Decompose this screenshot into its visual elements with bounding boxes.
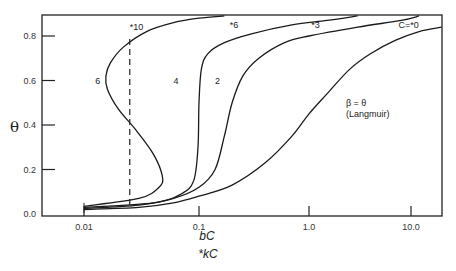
y-tick-label: 0.0 [23, 209, 36, 219]
x-axis-ticks: 0.010.11.010.0 [75, 206, 420, 232]
x-tick-label: 10.0 [402, 222, 420, 232]
annotation-label: β = θ [346, 98, 366, 108]
x-axis-title: bC [199, 229, 215, 243]
annotation-label: 2 [215, 76, 220, 86]
isotherm-curve-3 [84, 16, 224, 206]
annotation-label: (Langmuir) [346, 109, 390, 119]
annotation-label: *10 [130, 22, 144, 32]
y-tick-label: 0.4 [23, 120, 36, 130]
y-tick-label: 0.8 [23, 31, 36, 41]
annotation-label: *6 [230, 20, 239, 30]
adsorption-isotherm-chart: 0.010.11.010.0 0.00.20.40.60.8 *10*6*3C=… [0, 0, 456, 271]
annotation-label: 4 [173, 76, 178, 86]
x-tick-label: 0.01 [75, 222, 93, 232]
y-axis-title: θ [10, 118, 19, 136]
y-tick-label: 0.6 [23, 76, 36, 86]
curve-annotations: *10*6*3C=*0642β = θ(Langmuir) [95, 20, 419, 119]
annotation-label: 6 [95, 76, 100, 86]
y-axis-ticks: 0.00.20.40.60.8 [23, 31, 55, 219]
annotation-label: C=*0 [399, 20, 419, 30]
y-tick-label: 0.2 [23, 165, 36, 175]
x-axis-subtitle: *kC [198, 247, 218, 261]
annotation-label: *3 [311, 20, 320, 30]
x-tick-label: 1.0 [303, 222, 316, 232]
isotherm-curve-2 [84, 16, 358, 207]
